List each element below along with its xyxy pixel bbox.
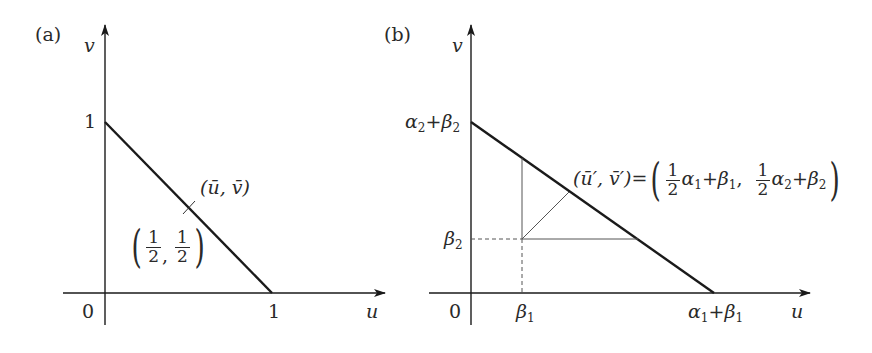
panel-b-point-formula: (ū′, v̄′)=(12α1+β1, 12α2+β2) xyxy=(573,158,844,202)
panel-b-origin: 0 xyxy=(449,302,461,321)
fraction-half-a: 12 xyxy=(666,162,681,199)
panel-b-x-tick-beta1: β1 xyxy=(516,302,535,324)
panel-b-y-tick-beta2: β2 xyxy=(444,229,463,251)
panel-a-origin: 0 xyxy=(82,302,94,321)
panel-b-y-tick-top: α2+β2 xyxy=(405,112,460,134)
fraction-half-2: 12 xyxy=(175,229,190,266)
panel-b-diagonal xyxy=(522,192,569,239)
panel-b-budget-line xyxy=(471,122,714,293)
panel-a-y-tick-1: 1 xyxy=(84,112,96,131)
panel-a-point-value: (12, 12) xyxy=(128,225,208,269)
panel-a-graphics xyxy=(63,25,385,325)
panel-a-point-label: (ū, v̄) xyxy=(200,178,250,197)
panel-b-x-tick-end: α1+β1 xyxy=(688,302,743,324)
panel-a-y-axis-label: v xyxy=(84,36,95,55)
panel-a-x-axis-label: u xyxy=(366,302,378,321)
panel-b-x-axis-label: u xyxy=(791,302,803,321)
panel-b-y-axis-label: v xyxy=(452,36,463,55)
panel-a-x-tick-1: 1 xyxy=(268,302,280,321)
fraction-half-b: 12 xyxy=(756,162,771,199)
panel-b-label: (b) xyxy=(384,25,411,44)
fraction-half-1: 12 xyxy=(146,229,161,266)
panel-a-label: (a) xyxy=(35,25,61,44)
figure-canvas: (a) v 1 0 1 u (ū, v̄) (12, 12) (b) v α2+… xyxy=(0,0,872,353)
